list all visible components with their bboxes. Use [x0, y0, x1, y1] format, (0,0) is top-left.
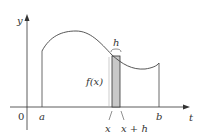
h-label: h	[113, 37, 119, 48]
x-label: x	[105, 123, 111, 134]
t-axis-label: t	[189, 112, 194, 123]
y-axis-label: y	[16, 15, 23, 26]
origin-label: 0	[18, 111, 24, 122]
y-axis-arrow-icon	[25, 14, 30, 21]
a-label: a	[39, 111, 45, 122]
t-axis-arrow-icon	[183, 105, 190, 110]
h-brace	[111, 49, 121, 52]
b-label: b	[156, 111, 162, 122]
strip-rectangle	[112, 56, 120, 107]
x-pointer	[109, 111, 112, 120]
f-of-x-label: f(x)	[85, 76, 103, 87]
curve-f	[42, 31, 159, 69]
x-plus-h-pointer	[121, 111, 124, 120]
x-plus-h-label: x + h	[121, 123, 148, 134]
diagram-canvas: y t 0 a b x x + h h f(x)	[0, 0, 200, 137]
area-diagram: y t 0 a b x x + h h f(x)	[0, 0, 200, 137]
